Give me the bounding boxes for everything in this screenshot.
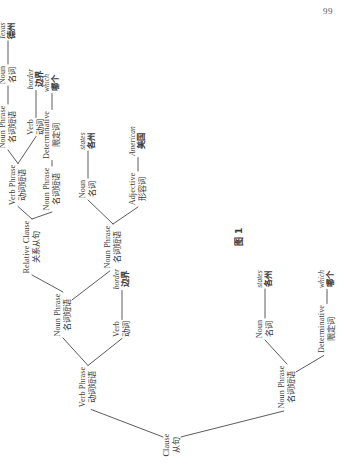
tree-node-clause: Clause从句 [163, 434, 181, 457]
tree-node-label-zh: 限定词 [327, 305, 336, 353]
tree-edge-np1-to-det1 [296, 356, 324, 372]
tree-node-label-zh: 边界 [35, 69, 44, 89]
tree-node-label-zh: 从句 [172, 434, 181, 457]
tree-edge-vp2-to-verb2 [18, 137, 36, 164]
tree-node-label-zh: 动词 [122, 321, 131, 337]
tree-node-noun1: Noun名词 [256, 320, 274, 339]
tree-edge-np2-to-relclause [32, 275, 63, 292]
tree-node-label-zh: 各州 [264, 270, 273, 287]
tree-edge-clause-to-vp1 [91, 410, 163, 437]
tree-node-label-zh: 名词 [265, 320, 274, 339]
tree-node-label-zh: 动词 [36, 119, 45, 135]
tree-node-det2-word: which哪个 [43, 74, 60, 92]
tree-node-label-zh: 名词 [8, 66, 17, 85]
tree-node-label-zh: 名词短语 [287, 365, 296, 408]
tree-node-vp2: Verb Phrase动词短语 [9, 165, 27, 205]
tree-node-label-zh: 名词短语 [8, 105, 17, 148]
tree-node-noun2: Noun名词 [79, 180, 97, 199]
tree-edge-np1-to-noun1 [265, 340, 287, 364]
tree-node-verb1-word: border边界 [113, 269, 130, 289]
tree-node-noun2-word: states各州 [79, 132, 96, 149]
tree-edge-vp1-to-np2 [63, 338, 88, 366]
rotated-figure-wrapper: Clause从句Noun Phrase名词短语Verb Phrase动词短语De… [0, 0, 345, 475]
tree-node-np5: Noun Phrase名词短语 [0, 105, 17, 148]
tree-node-label-zh: 名词 [88, 180, 97, 199]
tree-node-label-zh: 美国 [137, 126, 146, 156]
tree-node-np3: Noun Phrase名词短语 [104, 225, 122, 268]
tree-node-noun3: Noun名词 [0, 66, 17, 85]
tree-edge-relclause-to-vp2 [18, 207, 32, 220]
tree-edge-vp1-to-verb1 [88, 339, 122, 366]
tree-edge-relclause-to-np4 [32, 212, 52, 219]
tree-node-label-zh: 哪个 [51, 74, 60, 92]
tree-node-relclause: Relative Clause关系从句 [23, 220, 41, 273]
tree-edge-vp2-to-np5 [8, 150, 18, 164]
tree-node-label-zh: 哪个 [326, 270, 335, 288]
tree-node-det1: Determinative限定词 [318, 305, 336, 353]
tree-node-adj1: Adjective形容词 [129, 173, 147, 206]
tree-node-np2: Noun Phrase名词短语 [54, 293, 72, 336]
tree-edge-clause-to-np1 [181, 411, 284, 437]
tree-node-np4: Noun Phrase名词短语 [43, 167, 61, 210]
tree-edge-np3-to-adj1 [113, 207, 138, 224]
tree-node-label-zh: 各州 [87, 132, 96, 149]
tree-node-verb1: Verb动词 [113, 321, 131, 337]
tree-node-label-zh: 边界 [121, 269, 130, 289]
tree-node-noun3-word: Texas德州 [0, 22, 17, 39]
tree-node-det1-word: which哪个 [318, 270, 335, 288]
tree-node-label-zh: 名词短语 [63, 293, 72, 336]
tree-edge-np2-to-np3 [72, 271, 110, 300]
figure-caption: 图 1 [232, 228, 245, 246]
syntax-tree-figure: Clause从句Noun Phrase名词短语Verb Phrase动词短语De… [0, 0, 345, 475]
tree-node-adj1-word: American美国 [129, 126, 146, 156]
tree-node-verb2: Verb动词 [27, 119, 45, 135]
tree-edge-np3-to-noun2 [88, 200, 113, 224]
tree-node-label-zh: 限定词 [52, 111, 61, 159]
tree-node-label-zh: 动词短语 [18, 165, 27, 205]
tree-node-verb2-word: border边界 [27, 69, 44, 89]
tree-node-label-zh: 关系从句 [32, 220, 41, 273]
tree-node-np1: Noun Phrase名词短语 [278, 365, 296, 408]
tree-node-label-zh: 名词短语 [113, 225, 122, 268]
tree-node-label-zh: 动词短语 [88, 367, 97, 407]
tree-node-label-zh: 德州 [7, 22, 16, 39]
tree-node-noun1-word: states各州 [256, 270, 273, 287]
tree-node-label-zh: 形容词 [138, 173, 147, 206]
tree-node-vp1: Verb Phrase动词短语 [79, 367, 97, 407]
tree-node-label-zh: 名词短语 [52, 167, 61, 210]
tree-node-det2: Determinative限定词 [43, 111, 61, 159]
